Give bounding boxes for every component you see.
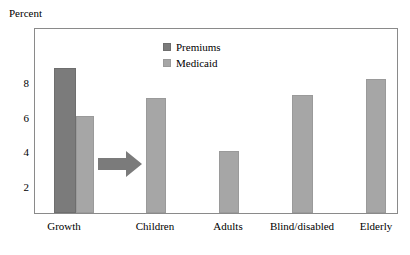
y-axis-title: Percent — [9, 7, 42, 19]
legend: Premiums Medicaid — [163, 40, 221, 72]
legend-label-medicaid: Medicaid — [176, 58, 218, 69]
bar-growth-premiums — [54, 68, 76, 213]
x-category-label-growth: Growth — [47, 220, 81, 232]
legend-item-medicaid: Medicaid — [163, 56, 221, 70]
y-tick-label-6: 6 — [9, 113, 29, 124]
right-arrow-icon — [98, 151, 142, 177]
bar-elderly-medicaid — [366, 79, 386, 213]
bar-growth-medicaid — [76, 116, 94, 213]
bar-chart: Percent 8 6 4 2 Premiums — [0, 0, 410, 255]
y-tick-label-4: 4 — [9, 147, 29, 158]
bar-children-medicaid — [146, 98, 166, 213]
x-category-label-adults: Adults — [213, 220, 242, 232]
legend-item-premiums: Premiums — [163, 40, 221, 54]
y-tick-label-8: 8 — [9, 78, 29, 89]
x-category-label-elderly: Elderly — [360, 220, 392, 232]
bar-blind-disabled-medicaid — [292, 95, 313, 213]
legend-swatch-icon-medicaid — [163, 59, 171, 67]
bar-adults-medicaid — [219, 151, 239, 213]
x-category-label-blind-disabled: Blind/disabled — [270, 220, 334, 232]
legend-swatch-icon-premiums — [163, 43, 171, 51]
y-tick-label-2: 2 — [9, 182, 29, 193]
legend-label-premiums: Premiums — [176, 42, 221, 53]
x-category-label-children: Children — [136, 220, 175, 232]
